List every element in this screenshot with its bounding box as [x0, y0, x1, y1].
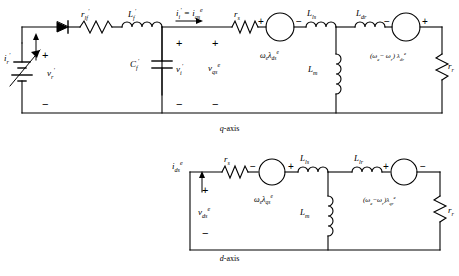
label-rr-q: rr: [448, 62, 454, 73]
label-Lm-d: Lm: [300, 208, 309, 219]
label-vqs: vqse: [208, 62, 220, 75]
label-vds: vdse: [198, 206, 210, 219]
figure-canvas: ir′ + − vr′ rlf′ Lf′ Cf′ ii′ = iqse + vi…: [0, 0, 459, 276]
label-rs-q: rs: [234, 10, 240, 21]
resistor-rr-d-symbol: [434, 196, 446, 222]
sign-q-rotor-source-right: +: [422, 17, 428, 27]
label-rs-d: rs: [224, 155, 230, 166]
resistor-rs-symbol: [232, 21, 258, 33]
label-Llr: Llr: [354, 154, 363, 165]
sign-q-stator-source-left: +: [258, 17, 264, 27]
sign-source-minus: −: [42, 99, 48, 110]
sign-d-rotor-source-right: −: [420, 162, 426, 172]
label-Cf: Cf′: [130, 58, 139, 71]
inductor-Lm-d-symbol: [328, 196, 333, 236]
label-current-ii: ii′ = iqse: [176, 7, 203, 20]
sign-source-plus: +: [42, 50, 48, 61]
label-ir: ir′: [4, 52, 10, 65]
label-rr-d: rr: [448, 206, 454, 217]
label-Lls-d: Lls: [300, 154, 309, 165]
label-vi: vi′: [176, 63, 183, 76]
source-we-wr-lambda-dr-symbol: [392, 13, 420, 41]
label-we-lambda-ds: ωeλdse: [260, 50, 279, 62]
sign-d-stator-source-right: +: [288, 162, 294, 172]
label-we-wr-lambda-dr: (ωe− ωr) λdre: [370, 52, 406, 62]
label-vr: vr′: [47, 67, 55, 80]
inductor-Ldr-symbol: [355, 22, 385, 27]
source-we-lambda-qs-symbol: [259, 159, 285, 185]
caption-q-axis: q-axis: [0, 124, 459, 133]
resistor-rr-q-symbol: [436, 54, 448, 80]
diode-symbol: [57, 21, 68, 33]
inductor-Lls-q-symbol: [306, 22, 336, 27]
label-Ldr: Ldr: [356, 9, 366, 20]
label-we-lambda-qs: ωeλqse: [254, 194, 273, 206]
label-Lm-q: Lm: [308, 65, 317, 76]
inductor-Lm-q-symbol: [336, 54, 341, 94]
sign-vds-minus: −: [202, 228, 208, 239]
label-rlf: rlf′: [81, 8, 89, 21]
sign-vqs-minus: −: [212, 99, 218, 110]
caption-d-axis: d-axis: [0, 254, 459, 263]
sign-q-rotor-source-left: −: [384, 17, 390, 27]
sign-vqs-plus: +: [212, 38, 218, 49]
sign-vi-plus: +: [176, 38, 182, 49]
circuit-schematic: [0, 0, 459, 276]
current-arrow-ir: [33, 33, 39, 60]
label-we-wr-lambda-qr: (ωe−ωr)λqre: [363, 196, 396, 206]
source-we-wr-lambda-qr-symbol: [391, 159, 417, 185]
resistor-rlf-symbol: [80, 21, 112, 33]
sign-d-rotor-source-left: +: [383, 162, 389, 172]
sign-d-stator-source-left: −: [250, 162, 256, 172]
sign-vi-minus: −: [176, 99, 182, 110]
sign-q-stator-source-right: −: [296, 17, 302, 27]
label-ids: idse: [172, 160, 183, 173]
inductor-Lf-symbol: [122, 22, 162, 27]
resistor-rs-d-symbol: [222, 166, 248, 178]
source-we-lambda-ds-symbol: [266, 13, 294, 41]
sign-vds-plus: +: [202, 185, 208, 196]
label-Lf: Lf′: [128, 8, 136, 21]
inductor-Llr-symbol: [352, 167, 382, 172]
inductor-Lls-d-symbol: [298, 167, 328, 172]
caption-d-axis-text: d-axis: [220, 254, 240, 263]
label-Lls-q: Lls: [307, 9, 316, 20]
caption-q-axis-text: q-axis: [220, 124, 240, 133]
